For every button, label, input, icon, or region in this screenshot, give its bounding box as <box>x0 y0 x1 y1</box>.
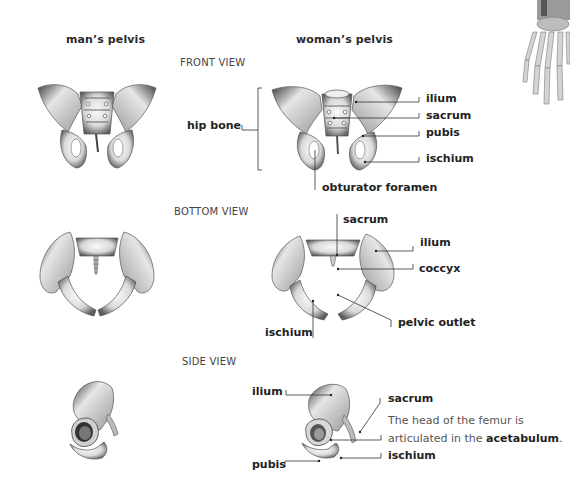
label-side-ischium: ischium <box>388 449 436 462</box>
man-pelvis-front-illustration <box>34 80 160 174</box>
description-line-2: articulated in the acetabulum. <box>388 430 562 448</box>
label-front-pubis: pubis <box>426 126 460 139</box>
label-bottom-ischium: ischium <box>265 326 313 339</box>
label-side-sacrum: sacrum <box>388 392 433 405</box>
man-hip-bone-side-illustration <box>64 378 124 464</box>
description-line-1: The head of the femur is <box>388 412 562 430</box>
man-pelvis-bottom-illustration <box>36 226 158 322</box>
acetabulum-term: acetabulum <box>486 432 559 445</box>
woman-pelvis-bottom-illustration <box>270 228 396 324</box>
label-pelvic-outlet: pelvic outlet <box>398 316 476 329</box>
label-side-pubis: pubis <box>252 458 286 471</box>
label-side-ilium: ilium <box>252 385 283 398</box>
hand-skeleton-illustration <box>515 0 570 110</box>
label-front-sacrum: sacrum <box>426 109 471 122</box>
label-front-ilium: ilium <box>426 92 457 105</box>
bottom-view-title: BOTTOM VIEW <box>174 206 248 217</box>
woman-pelvis-front-illustration <box>270 84 404 174</box>
woman-pelvis-title: woman’s pelvis <box>296 33 393 46</box>
label-bottom-coccyx: coccyx <box>419 262 460 275</box>
label-front-ischium: ischium <box>426 152 474 165</box>
man-pelvis-title: man’s pelvis <box>66 33 145 46</box>
woman-hip-bone-side-illustration <box>298 381 362 465</box>
front-view-title: FRONT VIEW <box>180 57 245 68</box>
label-bottom-ilium: ilium <box>420 236 451 249</box>
side-view-title: SIDE VIEW <box>182 356 236 367</box>
label-bottom-sacrum: sacrum <box>343 213 388 226</box>
acetabulum-description: The head of the femur is articulated in … <box>388 412 562 448</box>
label-obturator-foramen: obturator foramen <box>322 181 437 194</box>
label-hip-bone: hip bone <box>187 119 241 132</box>
